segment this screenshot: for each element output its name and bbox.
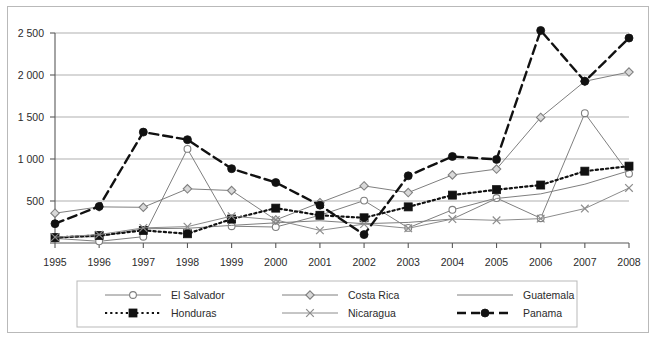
x-axis-tick-labels: 1995199619971998199920002001200220032004… bbox=[43, 256, 641, 268]
y-axis-tick-labels: 5001 0001 5002 0002 500 bbox=[18, 27, 44, 207]
legend-marker bbox=[129, 309, 137, 317]
x-tick-label: 1995 bbox=[43, 256, 67, 268]
x-tick-label: 2003 bbox=[397, 256, 421, 268]
data-point bbox=[448, 171, 456, 179]
legend-label: Costa Rica bbox=[348, 289, 400, 301]
x-tick-label: 2008 bbox=[617, 256, 641, 268]
x-tick-label: 2007 bbox=[573, 256, 597, 268]
legend-container bbox=[77, 281, 577, 327]
x-tick-label: 1999 bbox=[220, 256, 244, 268]
x-tick-label: 2000 bbox=[264, 256, 288, 268]
x-tick-label: 2005 bbox=[485, 256, 509, 268]
data-point bbox=[272, 179, 280, 187]
data-point bbox=[183, 230, 191, 238]
data-point bbox=[625, 34, 633, 42]
legend-label: Honduras bbox=[171, 307, 217, 319]
series-el-salvador bbox=[52, 110, 633, 245]
data-point bbox=[228, 165, 236, 173]
x-tick-label: 2004 bbox=[441, 256, 465, 268]
x-tick-label: 2001 bbox=[308, 256, 332, 268]
data-point bbox=[449, 206, 456, 213]
data-point bbox=[316, 211, 324, 219]
data-point bbox=[95, 202, 103, 210]
data-point bbox=[139, 128, 147, 136]
y-tick-label: 500 bbox=[26, 195, 44, 207]
data-point bbox=[361, 197, 368, 204]
data-series bbox=[51, 26, 633, 244]
data-point bbox=[51, 220, 59, 228]
data-point bbox=[448, 152, 456, 160]
legend-marker bbox=[130, 292, 137, 299]
data-point bbox=[139, 203, 147, 211]
data-point bbox=[581, 77, 589, 85]
y-tick-label: 2 500 bbox=[18, 27, 44, 39]
legend-marker bbox=[481, 309, 489, 317]
y-tick-label: 1 000 bbox=[18, 153, 44, 165]
chart-figure: 5001 0001 5002 0002 500 1995199619971998… bbox=[0, 0, 656, 341]
data-point bbox=[360, 231, 368, 239]
data-point bbox=[404, 172, 412, 180]
data-point bbox=[183, 185, 191, 193]
line-chart: 5001 0001 5002 0002 500 1995199619971998… bbox=[0, 0, 656, 341]
x-tick-label: 1996 bbox=[87, 256, 111, 268]
chart-legend: El SalvadorCosta RicaGuatemalaHondurasNi… bbox=[77, 281, 577, 327]
data-point bbox=[581, 205, 589, 213]
series-line bbox=[55, 72, 629, 220]
data-point bbox=[493, 186, 501, 194]
data-point bbox=[493, 155, 501, 163]
y-tick-label: 1 500 bbox=[18, 111, 44, 123]
data-point bbox=[228, 223, 235, 230]
data-point bbox=[272, 204, 280, 212]
legend-label: El Salvador bbox=[171, 289, 225, 301]
data-point bbox=[537, 26, 545, 34]
data-point bbox=[625, 162, 633, 170]
data-point bbox=[404, 188, 412, 196]
x-tick-label: 1997 bbox=[132, 256, 156, 268]
data-point bbox=[183, 136, 191, 144]
data-point bbox=[448, 191, 456, 199]
data-point bbox=[537, 181, 545, 189]
x-tick-label: 1998 bbox=[176, 256, 200, 268]
data-point bbox=[581, 167, 589, 175]
y-tick-label: 2 000 bbox=[18, 69, 44, 81]
x-tick-label: 2006 bbox=[529, 256, 553, 268]
legend-label: Guatemala bbox=[523, 289, 575, 301]
data-point bbox=[227, 186, 235, 194]
data-point bbox=[360, 182, 368, 190]
data-point bbox=[581, 110, 588, 117]
data-point bbox=[625, 184, 633, 192]
legend-label: Panama bbox=[523, 307, 562, 319]
data-point bbox=[51, 209, 59, 217]
x-tick-label: 2002 bbox=[352, 256, 376, 268]
legend-label: Nicaragua bbox=[348, 307, 396, 319]
data-point bbox=[404, 203, 412, 211]
data-point bbox=[316, 201, 324, 209]
data-point bbox=[184, 146, 191, 153]
